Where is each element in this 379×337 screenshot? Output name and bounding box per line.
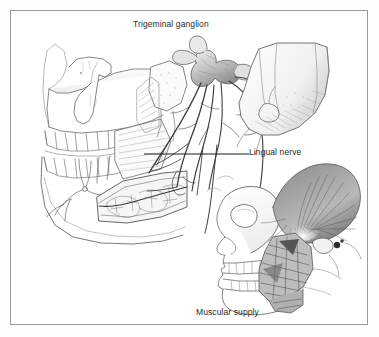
- masseter-muscle: [259, 233, 313, 313]
- anatomical-illustration: [11, 11, 367, 324]
- label-lingual-nerve: Lingual nerve: [249, 147, 301, 157]
- figure-page: Trigeminal ganglion Lingual nerve Muscul…: [0, 0, 379, 337]
- label-muscular-supply: Muscular supply: [196, 307, 259, 317]
- mandibular-ramus: [237, 43, 329, 155]
- muscular-supply-inset: [207, 164, 361, 315]
- label-trigeminal-ganglion: Trigeminal ganglion: [133, 19, 209, 29]
